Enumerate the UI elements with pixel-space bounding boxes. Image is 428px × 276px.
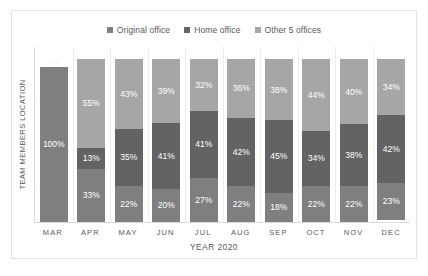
- bar-stack: 32%41%27%: [190, 59, 218, 222]
- bar-segment[interactable]: 18%: [265, 193, 293, 222]
- bar-stack: 55%13%33%: [77, 59, 105, 222]
- bar-segment[interactable]: 42%: [227, 118, 255, 186]
- bar-segment-label: 44%: [308, 91, 325, 100]
- legend-item-other-5-offices[interactable]: Other 5 offices: [255, 25, 322, 35]
- bar-segment-label: 34%: [308, 154, 325, 163]
- bar-segment-label: 38%: [345, 151, 362, 160]
- bar-segment-label: 42%: [383, 145, 400, 154]
- gridline: [185, 47, 186, 222]
- bar-group[interactable]: 0%100%: [40, 47, 68, 222]
- bar-segment-label: 20%: [158, 201, 175, 210]
- bar-group[interactable]: 38%45%18%: [265, 47, 293, 222]
- legend-label: Other 5 offices: [265, 25, 322, 35]
- bar-segment[interactable]: 38%: [340, 124, 368, 186]
- bar-stack: 36%42%22%: [227, 59, 255, 222]
- bar-segment-label: 42%: [233, 148, 250, 157]
- x-axis-title: YEAR 2020: [12, 242, 416, 252]
- bar-segment-label: 32%: [195, 81, 212, 90]
- legend-item-home-office[interactable]: Home office: [184, 25, 240, 35]
- bar-segment[interactable]: 38%: [265, 59, 293, 120]
- bar-segment[interactable]: 22%: [340, 186, 368, 222]
- bar-segment[interactable]: 27%: [190, 178, 218, 222]
- y-axis-title: TEAM MEMBERS LOCATION: [14, 11, 30, 258]
- x-axis-tick-label: AUG: [227, 228, 255, 237]
- bar-segment[interactable]: 55%: [77, 59, 105, 148]
- legend-label: Home office: [194, 25, 240, 35]
- bar-segment[interactable]: 22%: [227, 186, 255, 222]
- bar-segment-label: 100%: [43, 140, 65, 149]
- bar-segment-label: 55%: [83, 99, 100, 108]
- gridline: [73, 47, 74, 222]
- bar-segment[interactable]: 35%: [115, 129, 143, 186]
- bar-segment[interactable]: 36%: [227, 59, 255, 118]
- chart-container: Original office Home office Other 5 offi…: [11, 10, 417, 259]
- bar-group[interactable]: 36%42%22%: [227, 47, 255, 222]
- bar-segment-label: 35%: [120, 153, 137, 162]
- x-axis-tick-label: SEP: [264, 228, 292, 237]
- bar-segment[interactable]: 13%: [77, 148, 105, 169]
- bar-segment-label: 23%: [383, 197, 400, 206]
- bar-segment-label: 34%: [383, 83, 400, 92]
- bar-segment[interactable]: 44%: [302, 59, 330, 131]
- bar-segment-label: 39%: [158, 87, 175, 96]
- bar-group[interactable]: 55%13%33%: [77, 47, 105, 222]
- bar-segment[interactable]: 22%: [115, 186, 143, 222]
- bar-segment[interactable]: 34%: [302, 131, 330, 186]
- bar-group[interactable]: 43%35%22%: [115, 47, 143, 222]
- bar-segment[interactable]: 42%: [377, 115, 405, 183]
- x-axis-tick-label: JUL: [189, 228, 217, 237]
- gridline: [260, 47, 261, 222]
- bar-stack: 40%38%22%: [340, 59, 368, 222]
- bar-group[interactable]: 39%41%20%: [152, 47, 180, 222]
- gridline: [223, 47, 224, 222]
- x-axis-tick-label: OCT: [302, 228, 330, 237]
- x-axis-tick-label: JUN: [152, 228, 180, 237]
- bar-group[interactable]: 40%38%22%: [340, 47, 368, 222]
- x-axis-tick-label: DEC: [377, 228, 405, 237]
- bar-segment[interactable]: 40%: [340, 59, 368, 124]
- bar-segment[interactable]: 20%: [152, 189, 180, 222]
- gridline: [148, 47, 149, 222]
- bar-segment[interactable]: 33%: [77, 169, 105, 222]
- bar-stack: 34%42%23%: [377, 59, 405, 222]
- bar-segment-label: 22%: [120, 200, 137, 209]
- legend-swatch-icon: [184, 27, 190, 33]
- bar-segment-label: 13%: [83, 154, 100, 163]
- x-axis-tick-label: MAR: [39, 228, 67, 237]
- bar-group[interactable]: 34%42%23%: [377, 47, 405, 222]
- bar-segment-label: 45%: [270, 152, 287, 161]
- bar-segment[interactable]: 39%: [152, 59, 180, 122]
- bar-segment[interactable]: 100%: [40, 67, 68, 222]
- bar-segment[interactable]: 0%: [40, 59, 68, 67]
- bar-segment[interactable]: 43%: [115, 59, 143, 129]
- bar-group[interactable]: 44%34%22%: [302, 47, 330, 222]
- bar-stack: 44%34%22%: [302, 59, 330, 222]
- legend-swatch-icon: [255, 27, 261, 33]
- bar-segment-label: 40%: [345, 88, 362, 97]
- bar-segment[interactable]: 23%: [377, 183, 405, 220]
- bar-segment-label: 36%: [233, 84, 250, 93]
- bar-segment[interactable]: 32%: [190, 59, 218, 111]
- x-axis-tick-label: NOV: [340, 228, 368, 237]
- bar-segment-label: 22%: [345, 200, 362, 209]
- bar-stack: 39%41%20%: [152, 59, 180, 222]
- gridline: [298, 47, 299, 222]
- gridline: [110, 47, 111, 222]
- bar-segment-label: 33%: [83, 191, 100, 200]
- legend-item-original-office[interactable]: Original office: [107, 25, 170, 35]
- plot-area: 0%100%55%13%33%43%35%22%39%41%20%32%41%2…: [34, 47, 410, 222]
- bar-segment[interactable]: 41%: [190, 111, 218, 178]
- bar-segment[interactable]: 22%: [302, 186, 330, 222]
- bar-segment-label: 22%: [233, 200, 250, 209]
- bar-segment[interactable]: 34%: [377, 59, 405, 114]
- x-axis: MARAPRMAYJUNJULAUGSEPOCTNOVDEC: [34, 222, 410, 241]
- bar-segment[interactable]: 41%: [152, 123, 180, 190]
- bar-segment-label: 41%: [158, 152, 175, 161]
- bar-segment-label: 22%: [308, 200, 325, 209]
- chart-legend: Original office Home office Other 5 offi…: [12, 25, 416, 35]
- x-axis-tick-label: APR: [76, 228, 104, 237]
- bar-group[interactable]: 32%41%27%: [190, 47, 218, 222]
- gridline: [335, 47, 336, 222]
- x-axis-tick-label: MAY: [114, 228, 142, 237]
- bar-segment[interactable]: 45%: [265, 120, 293, 193]
